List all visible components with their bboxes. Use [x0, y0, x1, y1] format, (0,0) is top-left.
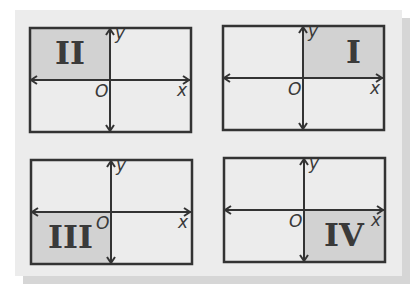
- x-axis-label: x: [371, 212, 381, 229]
- quadrant-label: III: [48, 221, 93, 253]
- quadrant-iv-diagram: IV y x O: [223, 157, 386, 263]
- x-axis-label: x: [177, 82, 187, 99]
- panel-shadow-right: [402, 18, 410, 284]
- origin-label: O: [95, 83, 108, 100]
- x-axis-label: x: [178, 214, 188, 231]
- quadrant-iii-diagram: III y x O: [30, 159, 193, 265]
- quadrant-i-diagram: I y x O: [222, 25, 385, 131]
- y-axis-label: y: [116, 157, 126, 174]
- y-axis-label: y: [308, 23, 318, 40]
- quadrant-ii-diagram: II y x O: [29, 27, 192, 133]
- panel-shadow-bottom: [23, 276, 410, 284]
- x-axis-label: x: [370, 80, 380, 97]
- axes-diagram: [29, 27, 192, 133]
- origin-label: O: [96, 215, 109, 232]
- quadrant-label: I: [346, 36, 361, 68]
- quadrant-label: II: [55, 37, 85, 69]
- origin-label: O: [289, 213, 302, 230]
- quadrant-label: IV: [324, 219, 364, 251]
- y-axis-label: y: [115, 25, 125, 42]
- y-axis-label: y: [309, 155, 319, 172]
- origin-label: O: [288, 81, 301, 98]
